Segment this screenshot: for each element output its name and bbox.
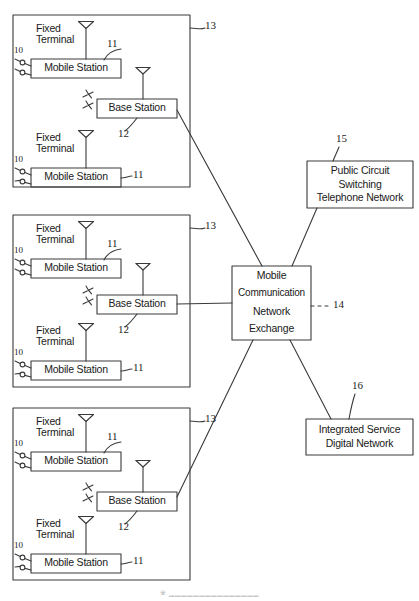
diagram-vector-layer xyxy=(0,0,419,601)
fixed-terminal-label-1a: Fixed Terminal xyxy=(36,23,74,45)
exchange-line-1: Mobile xyxy=(232,270,311,281)
leader-16 xyxy=(349,394,355,419)
exchange-line-4: Exchange xyxy=(232,323,311,334)
ref-13-3: 13 xyxy=(205,413,216,425)
link-exchange-pstn xyxy=(292,208,317,266)
base-station-label-2: Base Station xyxy=(97,298,177,309)
ref-10-2b: 10 xyxy=(14,348,23,358)
fixed-terminal-label-1b: Fixed Terminal xyxy=(36,132,74,154)
ref-14: 14 xyxy=(333,299,344,311)
ref-16: 16 xyxy=(352,380,363,392)
ref-10-1b: 10 xyxy=(14,155,23,165)
base-station-label-1: Base Station xyxy=(97,102,177,113)
exchange-line-2: Communication xyxy=(231,288,312,299)
ref-13-1: 13 xyxy=(205,20,216,32)
pstn-line-3: Telephone Network xyxy=(307,192,413,203)
ref-11-1a: 11 xyxy=(107,38,118,50)
mobile-station-label-2b: Mobile Station xyxy=(31,364,121,375)
ref-12-2: 12 xyxy=(118,324,129,336)
link-block2-exchange xyxy=(177,303,232,304)
leader-15 xyxy=(333,147,339,161)
ref-10-1a: 10 xyxy=(14,46,23,56)
ref-11-2b: 11 xyxy=(133,362,144,374)
ref-13-2: 13 xyxy=(205,220,216,232)
radio-wave-1 xyxy=(83,90,93,98)
fixed-terminal-label-2b: Fixed Terminal xyxy=(36,325,74,347)
fixed-terminal-label-2a: Fixed Terminal xyxy=(36,223,74,245)
ref-11-3b: 11 xyxy=(133,555,144,567)
ref-10-2a: 10 xyxy=(14,246,23,256)
isdn-line-1: Integrated Service xyxy=(306,424,413,435)
fixed-terminal-label-3b: Fixed Terminal xyxy=(36,518,74,540)
base-station-label-3: Base Station xyxy=(97,495,177,506)
ref-11-1b: 11 xyxy=(133,169,144,181)
ref-15: 15 xyxy=(336,133,347,145)
fixed-terminal-label-3a: Fixed Terminal xyxy=(36,416,74,438)
pstn-line-1: Public Circuit xyxy=(307,165,413,176)
ref-10-3a: 10 xyxy=(14,439,23,449)
mobile-station-label-2a: Mobile Station xyxy=(31,262,121,273)
ref-11-3a: 11 xyxy=(107,431,118,443)
isdn-line-2: Digital Network xyxy=(306,438,413,449)
ref-11-2a: 11 xyxy=(107,238,118,250)
mobile-station-label-3b: Mobile Station xyxy=(31,557,121,568)
patent-figure: Fixed Terminal 10 Mobile Station 11 Fixe… xyxy=(0,0,419,601)
mobile-station-label-1a: Mobile Station xyxy=(31,62,121,73)
ref-10-3b: 10 xyxy=(14,541,23,551)
mobile-station-label-1b: Mobile Station xyxy=(31,171,121,182)
figure-caption: ※ ▁▁▁▁▁▁▁▁▁▁▁▁▁▁▁ xyxy=(0,589,419,597)
exchange-line-3: Network xyxy=(232,306,311,317)
pstn-line-2: Switching xyxy=(307,179,413,190)
link-exchange-isdn xyxy=(290,340,331,419)
ref-12-1: 12 xyxy=(118,128,129,140)
ref-12-3: 12 xyxy=(118,521,129,533)
mobile-station-label-3a: Mobile Station xyxy=(31,455,121,466)
